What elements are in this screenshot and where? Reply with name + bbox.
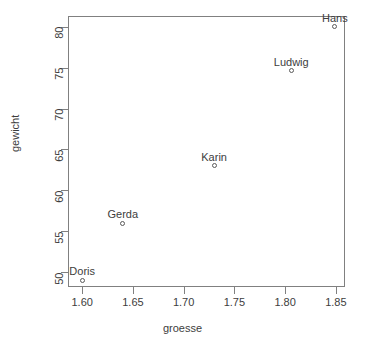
x-axis-tick — [336, 287, 337, 294]
data-point — [332, 24, 337, 29]
y-axis-tick-label: 55 — [54, 231, 65, 243]
x-axis-tick — [82, 287, 83, 294]
scatter-plot-screenshot: 50556065707580 1.601.651.701.751.801.85 … — [0, 0, 365, 352]
y-axis-title: gewicht — [10, 115, 21, 152]
x-axis-tick-label: 1.70 — [173, 297, 194, 308]
y-axis-tick-label: 70 — [54, 109, 65, 121]
x-axis-tick — [234, 287, 235, 294]
x-axis-tick-label: 1.85 — [325, 297, 346, 308]
data-point — [289, 68, 294, 73]
x-axis-tick — [133, 287, 134, 294]
data-point — [212, 163, 217, 168]
y-axis-tick-label: 65 — [54, 149, 65, 161]
data-point-layer — [68, 16, 345, 287]
x-axis-tick-label: 1.65 — [122, 297, 143, 308]
y-axis-tick-label: 75 — [54, 68, 65, 80]
y-axis-tick-label: 60 — [54, 190, 65, 202]
data-point — [120, 221, 125, 226]
x-axis-title: groesse — [0, 323, 365, 334]
x-axis-tick-label: 1.75 — [224, 297, 245, 308]
x-axis-tick — [184, 287, 185, 294]
data-point — [80, 278, 85, 283]
x-axis-tick-label: 1.60 — [71, 297, 92, 308]
x-axis-tick — [285, 287, 286, 294]
x-axis-tick-label: 1.80 — [274, 297, 295, 308]
y-axis-tick-label: 80 — [54, 27, 65, 39]
y-axis-tick-label: 50 — [54, 272, 65, 284]
